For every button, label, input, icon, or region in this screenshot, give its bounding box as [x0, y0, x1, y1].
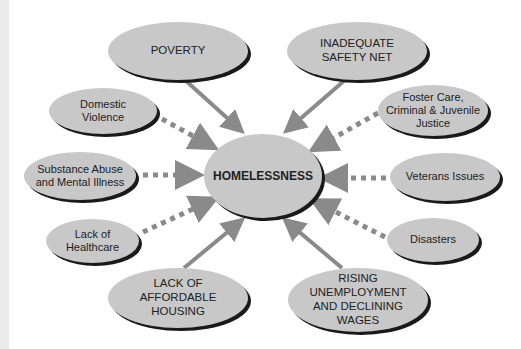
node-safety-net: INADEQUATE SAFETY NET [287, 22, 427, 80]
node-unemployment: RISING UNEMPLOYMENT AND DECLINING WAGES [288, 268, 428, 332]
arrow-foster-care [321, 113, 378, 145]
node-disasters: Disasters [387, 218, 479, 262]
node-poverty: POVERTY [108, 22, 248, 80]
arrow-safety-net [292, 80, 345, 126]
arrow-domestic-violence [162, 119, 206, 143]
arrow-poverty [185, 80, 236, 126]
node-healthcare: Lack of Healthcare [46, 219, 139, 263]
arrow-unemployment [291, 225, 342, 268]
arrow-healthcare [143, 203, 206, 232]
node-homelessness: HOMELESSNESS [204, 134, 322, 218]
node-domestic-violence: Domestic Violence [49, 88, 157, 134]
node-foster-care: Foster Care, Criminal & Juvenile Justice [378, 85, 488, 136]
node-veterans: Veterans Issues [390, 153, 500, 201]
node-housing: LACK OF AFFORDABLE HOUSING [108, 268, 248, 328]
arrow-disasters [322, 205, 385, 237]
arrow-housing [184, 225, 236, 268]
node-substance-abuse: Substance Abuse and Mental Illness [24, 152, 136, 200]
